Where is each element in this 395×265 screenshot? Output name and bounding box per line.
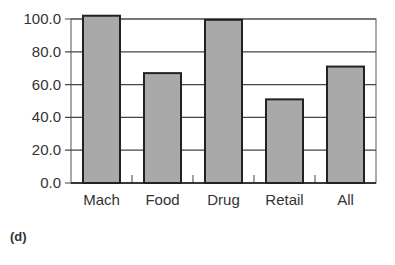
bar-mach	[83, 16, 120, 183]
bar-all	[327, 67, 364, 183]
bar-food	[144, 73, 181, 183]
y-tick-label: 40.0	[32, 108, 61, 125]
x-tick-label: Food	[145, 191, 179, 208]
bar-drug	[205, 20, 242, 183]
y-tick-label: 100.0	[23, 10, 61, 27]
x-tick-label: Drug	[207, 191, 240, 208]
y-tick-label: 0.0	[40, 174, 61, 191]
panel-label: (d)	[10, 229, 27, 244]
bar-retail	[266, 99, 303, 183]
y-tick-label: 60.0	[32, 76, 61, 93]
x-tick-label: Mach	[83, 191, 120, 208]
y-tick-label: 20.0	[32, 141, 61, 158]
x-tick-label: All	[337, 191, 354, 208]
x-tick-label: Retail	[265, 191, 303, 208]
y-tick-label: 80.0	[32, 43, 61, 60]
bar-chart: 0.020.040.060.080.0100.0MachFoodDrugReta…	[0, 0, 395, 225]
